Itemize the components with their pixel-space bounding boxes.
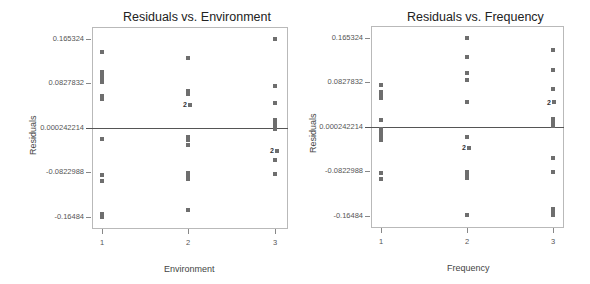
y-tick	[365, 38, 370, 39]
x-tick-label: 2	[462, 237, 472, 246]
data-point	[100, 50, 104, 54]
duplicate-count-marker: 2	[183, 101, 187, 108]
x-axis-label: Environment	[164, 264, 215, 274]
x-tick	[467, 228, 468, 233]
data-point	[186, 138, 190, 142]
data-point	[100, 215, 104, 219]
data-point	[379, 138, 383, 142]
data-point	[100, 179, 104, 183]
y-tick-label: 0.0827832	[4, 79, 84, 87]
x-tick-label: 2	[183, 238, 193, 247]
duplicate-count-marker: 2	[270, 147, 274, 154]
data-point	[467, 146, 471, 150]
y-tick-label: 0.000242214	[4, 124, 84, 132]
x-tick	[275, 229, 276, 234]
duplicate-count-marker: 2	[462, 144, 466, 151]
data-point	[551, 87, 555, 91]
data-point	[273, 37, 277, 41]
x-tick-label: 1	[97, 238, 107, 247]
y-tick	[365, 171, 370, 172]
data-point	[188, 103, 192, 107]
x-axis-label: Frequency	[447, 263, 490, 273]
data-point	[465, 71, 469, 75]
data-point	[186, 208, 190, 212]
data-point	[551, 124, 555, 128]
duplicate-count-marker: 2	[547, 99, 551, 106]
data-point	[552, 100, 556, 104]
data-point	[551, 156, 555, 160]
data-point	[100, 173, 104, 177]
data-point	[100, 97, 104, 101]
y-axis-label: Residuals	[308, 113, 318, 153]
data-point	[379, 96, 383, 100]
data-point	[273, 84, 277, 88]
y-tick	[86, 83, 91, 84]
y-tick	[365, 82, 370, 83]
y-tick-label: -0.0822988	[283, 167, 363, 175]
data-point	[273, 172, 277, 176]
data-point	[551, 213, 555, 217]
x-tick	[102, 229, 103, 234]
data-point	[273, 158, 277, 162]
x-tick	[188, 229, 189, 234]
data-point	[379, 171, 383, 175]
y-tick	[86, 217, 91, 218]
data-point	[465, 135, 469, 139]
y-tick-label: -0.16484	[4, 213, 84, 221]
y-tick	[86, 172, 91, 173]
x-tick-label: 1	[376, 237, 386, 246]
residuals-vs-frequency-chart: Residuals vs. Frequency 0.165324 0.08278…	[295, 0, 590, 284]
data-point	[551, 48, 555, 52]
y-axis-label: Residuals	[28, 115, 38, 155]
data-point	[465, 176, 469, 180]
residuals-vs-environment-chart: Residuals vs. Environment 0.165324 0.082…	[0, 0, 295, 284]
y-tick-label: 0.165324	[4, 35, 84, 43]
data-point	[379, 118, 383, 122]
data-point	[273, 127, 277, 131]
data-point	[100, 137, 104, 141]
data-point	[186, 92, 190, 96]
data-point	[551, 68, 555, 72]
data-point	[273, 101, 277, 105]
y-tick-label: 0.000242214	[283, 123, 363, 131]
x-tick	[553, 228, 554, 233]
x-tick-label: 3	[548, 237, 558, 246]
x-tick	[381, 228, 382, 233]
data-point	[465, 55, 469, 59]
y-tick-label: 0.165324	[283, 34, 363, 42]
data-point	[186, 177, 190, 181]
data-point	[465, 36, 469, 40]
data-point	[379, 83, 383, 87]
data-point	[465, 213, 469, 217]
y-tick-label: -0.16484	[283, 212, 363, 220]
y-tick-label: 0.0827832	[283, 78, 363, 86]
data-point	[186, 143, 190, 147]
data-point	[275, 149, 279, 153]
y-tick-label: -0.0822988	[4, 168, 84, 176]
data-point	[551, 170, 555, 174]
y-tick	[365, 216, 370, 217]
data-point	[465, 78, 469, 82]
data-point	[100, 80, 104, 84]
chart-title: Residuals vs. Environment	[123, 10, 271, 24]
chart-title: Residuals vs. Frequency	[407, 10, 544, 24]
data-point	[379, 177, 383, 181]
zero-reference-line	[86, 128, 288, 129]
data-point	[465, 100, 469, 104]
y-tick	[86, 39, 91, 40]
x-tick-label: 3	[270, 238, 280, 247]
data-point	[186, 56, 190, 60]
zero-reference-line	[365, 127, 564, 128]
